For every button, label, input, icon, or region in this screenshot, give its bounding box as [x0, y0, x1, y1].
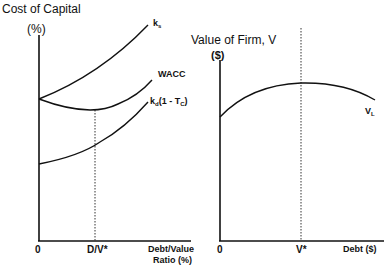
left-x-origin: 0 — [35, 245, 41, 255]
vl-label: VL — [365, 107, 375, 117]
wacc-label: WACC — [158, 70, 186, 79]
right-y-unit: ($) — [211, 50, 224, 61]
vl-curve — [220, 83, 375, 117]
ks-label: ks — [153, 19, 161, 29]
left-y-unit: (%) — [27, 23, 46, 35]
right-x-origin: 0 — [217, 245, 223, 255]
vl-label-sub: L — [371, 111, 375, 117]
right-chart-title: Value of Firm, V — [191, 34, 276, 46]
wacc-curve — [39, 80, 152, 110]
left-x-label-line1: Debt/Value — [148, 245, 194, 254]
kd-curve — [39, 102, 148, 164]
right-x-optimum-tick: V* — [296, 245, 307, 255]
right-x-label: Debt ($) — [343, 245, 377, 254]
left-x-label-line2: Ratio (%) — [153, 256, 192, 265]
left-chart-title: Cost of Capital — [2, 3, 81, 15]
kd-label: kd(1 - TC) — [150, 97, 188, 107]
kd-label-mid: (1 - T — [159, 96, 181, 106]
left-x-optimum-tick: D/V* — [87, 245, 108, 255]
ks-curve — [39, 25, 148, 99]
ks-label-sub: s — [158, 23, 161, 29]
kd-label-end: ) — [185, 96, 188, 106]
